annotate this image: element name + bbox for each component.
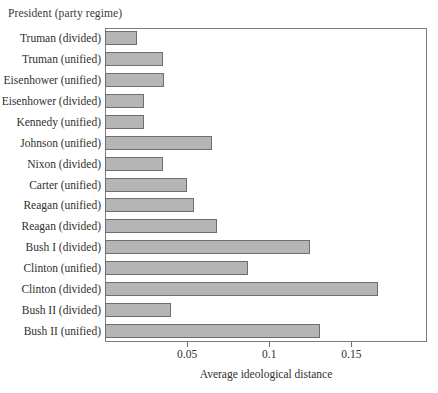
bar-row [105,70,427,91]
bar-row [105,195,427,216]
bar-row [105,237,427,258]
bar [105,157,163,171]
y-axis-tick-label: Clinton (divided) [0,283,101,296]
y-axis-tick-label: Reagan (unified) [0,199,101,212]
y-axis-category-labels: Truman (divided)Truman (unified)Eisenhow… [0,28,101,342]
x-axis-tick-mark [269,342,270,347]
y-axis-tick-label: Bush II (unified) [0,325,101,338]
bar-row [105,49,427,70]
bar-row [105,112,427,133]
x-axis-tick-label: 0.05 [177,348,197,360]
bar-row [105,175,427,196]
bar [105,198,194,212]
bar [105,219,217,233]
y-axis-tick-label: Kennedy (unified) [0,116,101,129]
bar-row [105,258,427,279]
bar-row [105,216,427,237]
bar-row [105,321,427,342]
y-axis-tick-label: Nixon (divided) [0,158,101,171]
bar-row [105,279,427,300]
y-axis-tick-label: Reagan (divided) [0,220,101,233]
bar [105,240,310,254]
bars-layer [105,28,427,342]
y-axis-tick-label: Carter (unified) [0,179,101,192]
bar-row [105,28,427,49]
bar [105,94,144,108]
y-axis-tick-label: Truman (unified) [0,53,101,66]
bar-chart: President (party regime) Truman (divided… [0,0,438,393]
bar-row [105,133,427,154]
bar [105,52,163,66]
bar [105,178,187,192]
bar [105,31,137,45]
bar [105,261,248,275]
bar [105,115,144,129]
y-axis-tick-label: Bush I (divided) [0,241,101,254]
y-axis-tick-label: Clinton (unified) [0,262,101,275]
bar-row [105,300,427,321]
y-axis-tick-label: Eisenhower (unified) [0,74,101,87]
bar [105,324,320,338]
x-axis-title: Average ideological distance [105,368,427,380]
bar-row [105,91,427,112]
y-axis-tick-label: Eisenhower (divided) [0,95,101,108]
bar-row [105,154,427,175]
x-axis-tick-label: 0.1 [262,348,276,360]
bar [105,73,164,87]
x-axis-tick-mark [351,342,352,347]
bar [105,303,171,317]
y-axis-tick-label: Johnson (unified) [0,137,101,150]
y-axis-tick-label: Bush II (divided) [0,304,101,317]
bar [105,136,212,150]
y-axis-tick-label: Truman (divided) [0,32,101,45]
x-axis-tick-mark [187,342,188,347]
y-axis-group-title: President (party regime) [8,7,122,19]
bar [105,282,378,296]
x-axis-tick-label: 0.15 [341,348,361,360]
